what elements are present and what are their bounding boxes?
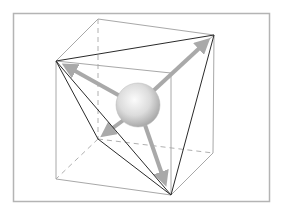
central-sphere: [116, 83, 160, 127]
tetrahedral-cube-diagram: [0, 0, 281, 213]
